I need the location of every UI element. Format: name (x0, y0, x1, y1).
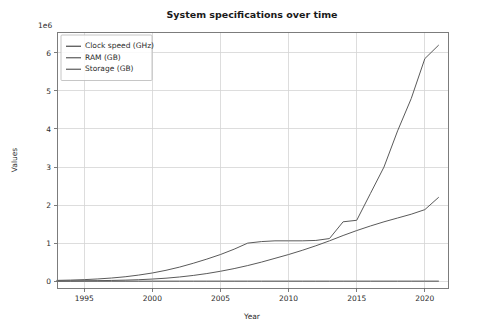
chart-title: System specifications over time (166, 9, 337, 20)
chart-svg: 0123456199520002005201020152020 System s… (0, 0, 481, 332)
y-tick-label: 6 (46, 49, 51, 58)
legend-label-3: Storage (GB) (85, 64, 134, 73)
x-tick-label: 2020 (415, 294, 434, 303)
x-tick-label: 2015 (347, 294, 366, 303)
chart-figure: 0123456199520002005201020152020 System s… (0, 0, 481, 332)
x-tick-label: 1995 (75, 294, 94, 303)
y-tick-label: 1 (46, 239, 51, 248)
y-tick-label: 0 (46, 277, 51, 286)
chart-legend[interactable]: Clock speed (GHz)RAM (GB)Storage (GB) (61, 35, 154, 81)
legend-label-2: RAM (GB) (85, 53, 121, 62)
x-tick-label: 2005 (211, 294, 230, 303)
x-axis-label: Year (243, 312, 261, 321)
y-tick-label: 3 (46, 163, 51, 172)
y-tick-label: 2 (46, 201, 51, 210)
y-axis-label: Values (10, 148, 19, 173)
x-tick-label: 2010 (279, 294, 298, 303)
legend-label-1: Clock speed (GHz) (85, 41, 154, 50)
x-tick-label: 2000 (143, 294, 162, 303)
y-tick-label: 4 (46, 125, 51, 134)
y-tick-label: 5 (46, 87, 51, 96)
y-axis-offset-label: 1e6 (38, 21, 52, 30)
